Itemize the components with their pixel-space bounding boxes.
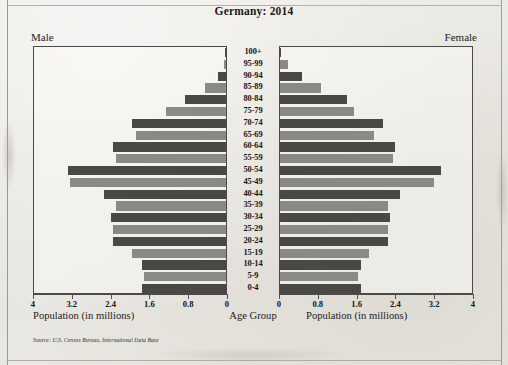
female-bar xyxy=(280,131,374,140)
male-bar xyxy=(136,131,226,140)
age-group-label: 35-39 xyxy=(227,199,279,211)
axis-tick-label: 0 xyxy=(277,299,281,309)
age-group-label: 90-94 xyxy=(227,70,279,82)
age-group-label: 85-89 xyxy=(227,81,279,93)
source-citation: Source: U.S. Census Bureau, Internationa… xyxy=(33,337,159,343)
table-row xyxy=(280,71,472,83)
female-bar xyxy=(280,249,369,258)
male-series-label: Male xyxy=(31,31,54,43)
age-group-label: 30-34 xyxy=(227,211,279,223)
female-bar xyxy=(280,142,395,151)
age-group-label: 45-49 xyxy=(227,176,279,188)
female-bar xyxy=(280,166,441,175)
axis-tick-label: 2.4 xyxy=(390,299,401,309)
table-row xyxy=(34,153,226,165)
female-bar xyxy=(280,107,354,116)
table-row xyxy=(280,94,472,106)
female-bar xyxy=(280,213,390,222)
table-row xyxy=(34,248,226,260)
male-bar xyxy=(218,72,226,81)
age-group-label: 75-79 xyxy=(227,105,279,117)
page-edge-bottom xyxy=(7,360,502,361)
male-bar xyxy=(142,284,226,293)
table-row xyxy=(280,141,472,153)
male-bar xyxy=(132,119,226,128)
table-row xyxy=(34,236,226,248)
table-row xyxy=(34,59,226,71)
table-row xyxy=(280,177,472,189)
table-row xyxy=(34,212,226,224)
table-row xyxy=(34,94,226,106)
table-row xyxy=(280,189,472,201)
table-row xyxy=(34,224,226,236)
female-axis-caption: Population (in millions) xyxy=(306,310,407,321)
page-edge-left xyxy=(7,0,8,365)
table-row xyxy=(34,189,226,201)
male-plot-panel xyxy=(33,46,227,294)
male-bar xyxy=(224,60,226,69)
male-bar xyxy=(185,95,226,104)
table-row xyxy=(280,259,472,271)
age-group-caption: Age Group xyxy=(227,310,279,321)
age-group-label: 50-54 xyxy=(227,164,279,176)
age-group-label: 65-69 xyxy=(227,129,279,141)
table-row xyxy=(280,47,472,59)
female-bar-rows xyxy=(280,47,472,293)
age-group-label: 70-74 xyxy=(227,117,279,129)
female-bar xyxy=(280,190,400,199)
table-row xyxy=(280,118,472,130)
table-row xyxy=(34,200,226,212)
age-group-axis: 100+95-9990-9485-8980-8475-7970-7465-696… xyxy=(227,46,279,294)
female-bar xyxy=(280,260,361,269)
male-bar xyxy=(113,237,226,246)
male-bar xyxy=(113,142,226,151)
female-bar xyxy=(280,237,388,246)
age-group-label: 15-19 xyxy=(227,247,279,259)
table-row xyxy=(34,71,226,83)
male-bar xyxy=(142,260,226,269)
axis-tick-label: 0.8 xyxy=(312,299,323,309)
table-row xyxy=(34,106,226,118)
table-row xyxy=(34,47,226,59)
axis-tick-label: 3.2 xyxy=(66,299,77,309)
table-row xyxy=(34,177,226,189)
female-bar xyxy=(280,119,383,128)
table-row xyxy=(280,165,472,177)
page-edge-right xyxy=(501,0,502,365)
age-group-label: 55-59 xyxy=(227,152,279,164)
age-group-label: 0-4 xyxy=(227,282,279,294)
male-bar xyxy=(68,166,226,175)
male-bar xyxy=(104,190,226,199)
table-row xyxy=(34,259,226,271)
axis-tick-label: 0.8 xyxy=(183,299,194,309)
axis-tick-label: 3.2 xyxy=(429,299,440,309)
table-row xyxy=(34,271,226,283)
table-row xyxy=(34,141,226,153)
female-bar xyxy=(280,272,358,281)
scan-blemish xyxy=(2,120,16,190)
axis-tick-label: 0 xyxy=(225,299,229,309)
age-group-label: 5-9 xyxy=(227,270,279,282)
age-group-label: 60-64 xyxy=(227,140,279,152)
male-bar xyxy=(113,225,226,234)
chart-title: Germany: 2014 xyxy=(0,5,508,17)
axis-tick-label: 1.6 xyxy=(144,299,155,309)
table-row xyxy=(280,106,472,118)
table-row xyxy=(34,283,226,295)
female-bar xyxy=(280,48,281,57)
female-bar xyxy=(280,201,388,210)
male-bar xyxy=(132,249,226,258)
age-group-label: 95-99 xyxy=(227,58,279,70)
scanned-page: Germany: 2014 Male Female 100+95-9990-94… xyxy=(0,0,508,365)
table-row xyxy=(34,165,226,177)
female-series-label: Female xyxy=(445,31,477,43)
table-row xyxy=(280,130,472,142)
female-bar xyxy=(280,178,434,187)
table-row xyxy=(280,82,472,94)
table-row xyxy=(280,248,472,260)
female-bar xyxy=(280,284,361,293)
axis-tick-label: 2.4 xyxy=(105,299,116,309)
female-bar xyxy=(280,225,388,234)
table-row xyxy=(280,212,472,224)
age-group-label: 25-29 xyxy=(227,223,279,235)
